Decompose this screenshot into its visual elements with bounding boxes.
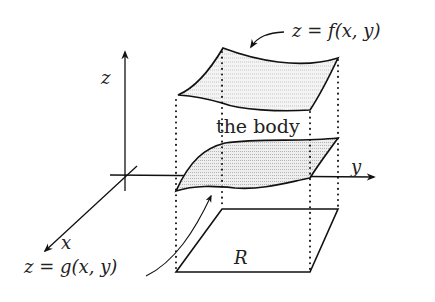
x-axis-label: x (61, 234, 71, 252)
body-label: the body (216, 117, 300, 136)
region-r-label: R (234, 249, 248, 267)
top-surface-label: z = f(x, y) (292, 22, 380, 40)
bottom-surface-pointer (146, 196, 211, 276)
top-surface-pointer (251, 32, 284, 47)
z-axis-label: z (101, 69, 110, 87)
top-surface (178, 48, 338, 111)
bottom-surface-label: z = g(x, y) (24, 258, 117, 276)
solid-between-surfaces-diagram: z y x z = f(x, y) the body z = g(x, y) R (0, 0, 435, 302)
region-r-outline (176, 209, 338, 272)
bottom-surface (176, 138, 338, 191)
y-axis-label: y (351, 158, 361, 176)
x-axis (45, 166, 137, 251)
